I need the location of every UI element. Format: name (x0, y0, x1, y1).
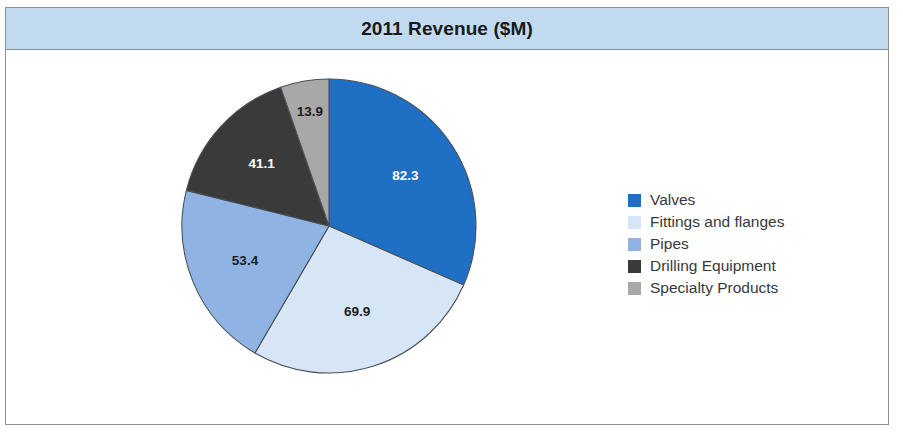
legend-color-swatch-icon (628, 238, 641, 251)
legend: ValvesFittings and flangesPipesDrilling … (628, 189, 858, 299)
chart-title-bar: 2011 Revenue ($M) (6, 8, 888, 50)
pie-slice-value-label: 41.1 (249, 156, 276, 171)
legend-color-swatch-icon (628, 282, 641, 295)
legend-item-label: Specialty Products (650, 280, 778, 296)
pie-slice-group (182, 79, 476, 373)
pie-slice-value-label: 13.9 (297, 104, 323, 119)
legend-item-label: Valves (650, 192, 695, 208)
pie-chart: 82.369.953.441.113.9 (179, 76, 479, 376)
page-title: 2011 Revenue ($M) (361, 18, 533, 40)
chart-frame: 2011 Revenue ($M) 82.369.953.441.113.9 V… (5, 7, 889, 425)
legend-color-swatch-icon (628, 260, 641, 273)
legend-color-swatch-icon (628, 194, 641, 207)
pie-chart-svg: 82.369.953.441.113.9 (179, 76, 479, 376)
legend-item[interactable]: Specialty Products (628, 277, 858, 299)
legend-item[interactable]: Valves (628, 189, 858, 211)
legend-item-label: Fittings and flanges (650, 214, 784, 230)
pie-slice-value-label: 82.3 (392, 168, 419, 183)
legend-item[interactable]: Fittings and flanges (628, 211, 858, 233)
pie-slice-value-label: 69.9 (344, 304, 370, 319)
legend-item-label: Pipes (650, 236, 689, 252)
pie-slice-value-label: 53.4 (232, 253, 259, 268)
plot-area: 82.369.953.441.113.9 ValvesFittings and … (6, 50, 888, 424)
legend-item[interactable]: Pipes (628, 233, 858, 255)
legend-color-swatch-icon (628, 216, 641, 229)
legend-item[interactable]: Drilling Equipment (628, 255, 858, 277)
legend-item-label: Drilling Equipment (650, 258, 776, 274)
